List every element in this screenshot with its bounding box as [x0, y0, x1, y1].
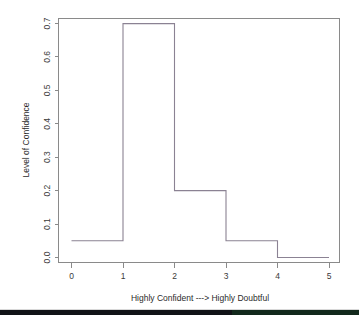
x-tick-label: 2	[172, 271, 177, 281]
y-tick-label: 0.7	[42, 17, 52, 29]
x-tick-label: 3	[224, 271, 229, 281]
x-tick-label: 0	[69, 271, 74, 281]
y-tick-label: 0.0	[42, 251, 52, 263]
y-tick-label: 0.3	[42, 151, 52, 163]
chart-page: 0.7 0.6 0.5 0.4 0.3 0.2 0.1 0.0 Level of…	[0, 0, 359, 327]
bottom-band-hairline	[0, 309, 359, 310]
x-axis-title: Highly Confident ---> Highly Doubtful	[131, 293, 269, 303]
histogram-step-plot: 0.7 0.6 0.5 0.4 0.3 0.2 0.1 0.0 Level of…	[0, 0, 359, 327]
x-tick-label: 4	[275, 271, 280, 281]
chart-background	[0, 0, 359, 327]
x-tick-label: 5	[327, 271, 332, 281]
y-tick-label: 0.6	[42, 51, 52, 63]
y-tick-label: 0.4	[42, 118, 52, 130]
y-tick-label: 0.1	[42, 218, 52, 230]
x-tick-label: 1	[121, 271, 126, 281]
y-tick-label: 0.2	[42, 184, 52, 196]
y-tick-label: 0.5	[42, 84, 52, 96]
y-axis-title: Level of Confidence	[21, 102, 31, 177]
chart-canvas: 0.7 0.6 0.5 0.4 0.3 0.2 0.1 0.0 Level of…	[0, 0, 359, 327]
bottom-band-green-tint	[232, 310, 359, 315]
